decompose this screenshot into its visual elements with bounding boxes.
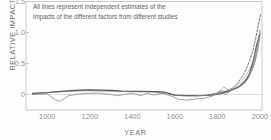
- y-axis-label: RELATIVE IMPACT: [8, 0, 17, 83]
- x-tick-label: 1800: [197, 112, 237, 121]
- series-estimate-3: [32, 31, 260, 95]
- chart-figure: 00.51.01.5 100012001400160018002000 RELA…: [0, 0, 271, 140]
- x-tick-label: 1200: [70, 112, 110, 121]
- y-tick-label: 0: [3, 90, 25, 99]
- series-estimate-4: [196, 29, 260, 95]
- series-estimate-1: [32, 34, 259, 95]
- x-axis-label: YEAR: [0, 128, 271, 137]
- x-tick-label: 1400: [112, 112, 152, 121]
- series-estimate-5: [209, 14, 261, 95]
- x-tick-label: 1000: [27, 112, 67, 121]
- x-tick-label: 1600: [155, 112, 195, 121]
- x-tick-label: 2000: [240, 112, 271, 121]
- chart-annotation: All lines represent independent estimate…: [33, 2, 193, 21]
- series-lines: [32, 14, 260, 101]
